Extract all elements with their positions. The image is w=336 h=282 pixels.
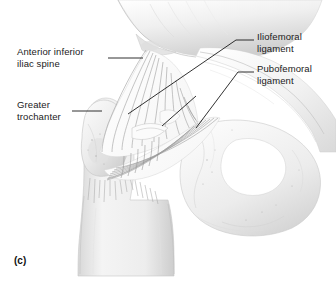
label-anterior-inferior-iliac-spine: Anterior inferior iliac spine [17,46,84,69]
hip-joint-ligaments-figure: Anterior inferior iliac spine Greater tr… [0,0,336,282]
label-pubofemoral-ligament: Pubofemoral ligament [257,63,312,86]
label-greater-trochanter: Greater trochanter [17,99,61,122]
figure-caption: (c) [14,255,26,266]
label-iliofemoral-ligament: Iliofemoral ligament [257,31,302,54]
